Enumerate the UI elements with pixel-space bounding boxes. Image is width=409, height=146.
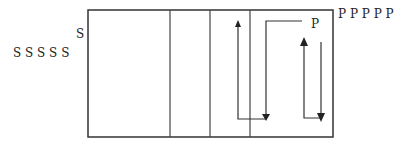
diagram-canvas xyxy=(0,0,409,146)
label-s-row: S S S S S xyxy=(13,46,69,60)
label-s-single: S xyxy=(76,27,84,41)
label-p-row: P P P P P xyxy=(338,7,394,21)
arrow-path-1 xyxy=(235,20,302,121)
arrow-path-2 xyxy=(300,37,325,122)
label-p-single: P xyxy=(311,17,319,31)
